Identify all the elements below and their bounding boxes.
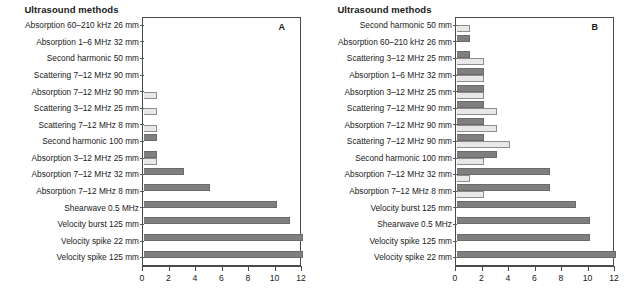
- bar-group: [457, 67, 626, 84]
- bar-group: [457, 183, 626, 200]
- bar-dark: [144, 234, 303, 241]
- bar-group: [144, 233, 313, 250]
- bar-light: [144, 92, 157, 99]
- chart-row: Second harmonic 100 mm: [0, 133, 313, 150]
- chart-row: Absorption 1–6 MHz 32 mm: [313, 67, 626, 84]
- x-axis-tick: [561, 266, 562, 271]
- bar-group: [144, 117, 313, 134]
- bar-group: [144, 17, 313, 34]
- row-label: Absorption 60–210 kHz 26 mm: [313, 38, 452, 46]
- row-label: Absorption 7–12 MHz 8 mm: [0, 187, 139, 195]
- bar-group: [457, 200, 626, 217]
- bar-group: [144, 150, 313, 167]
- bar-group: [144, 183, 313, 200]
- x-axis-tick: [248, 266, 249, 271]
- bar-dark: [457, 85, 484, 92]
- bar-dark: [144, 201, 277, 208]
- chart-row: Absorption 7–12 MHz 90 mm: [0, 83, 313, 100]
- x-axis-tick-label: 0: [453, 273, 458, 283]
- x-axis-tick: [195, 266, 196, 271]
- chart-row: Second harmonic 100 mm: [313, 150, 626, 167]
- panel-a: Ultrasound methodsAAbsorption 60–210 kHz…: [0, 0, 313, 302]
- row-label: Velocity spike 125 mm: [0, 253, 139, 261]
- figure-container: Ultrasound methodsAAbsorption 60–210 kHz…: [0, 0, 626, 302]
- panel-b-rows: Second harmonic 50 mmAbsorption 60–210 k…: [313, 17, 626, 266]
- x-axis-tick-label: 4: [193, 273, 198, 283]
- x-axis-tick: [508, 266, 509, 271]
- row-label: Scattering 7–12 MHz 90 mm: [313, 104, 452, 112]
- chart-row: Velocity burst 125 mm: [313, 200, 626, 217]
- bar-dark: [457, 51, 470, 58]
- bar-light: [457, 92, 484, 99]
- bar-group: [457, 117, 626, 134]
- x-axis-tick: [301, 266, 302, 271]
- row-label: Scattering 3–12 MHz 25 mm: [313, 54, 452, 62]
- panel-a-rows: Absorption 60–210 kHz 26 mmAbsorption 1–…: [0, 17, 313, 266]
- chart-row: Scattering 3–12 MHz 25 mm: [0, 100, 313, 117]
- bar-dark: [457, 184, 550, 191]
- bar-light: [144, 158, 157, 165]
- chart-row: Shearwave 0.5 MHz: [313, 216, 626, 233]
- chart-row: Absorption 7–12 MHz 8 mm: [0, 183, 313, 200]
- bar-group: [457, 249, 626, 266]
- chart-row: Velocity spike 125 mm: [313, 233, 626, 250]
- row-label: Scattering 3–12 MHz 25 mm: [0, 104, 139, 112]
- row-label: Absorption 1–6 MHz 32 mm: [0, 38, 139, 46]
- bar-light: [457, 58, 484, 65]
- panel-b-x-axis: 024681012: [455, 266, 614, 296]
- bar-light: [457, 141, 510, 148]
- x-axis-tick-label: 8: [559, 273, 564, 283]
- row-label: Velocity spike 22 mm: [0, 237, 139, 245]
- bar-light: [457, 191, 484, 198]
- bar-dark: [457, 234, 590, 241]
- bar-group: [144, 166, 313, 183]
- x-axis-tick: [614, 266, 615, 271]
- bar-light: [144, 125, 157, 132]
- row-label: Second harmonic 100 mm: [0, 137, 139, 145]
- bar-group: [144, 100, 313, 117]
- row-label: Absorption 7–12 MHz 8 mm: [313, 187, 452, 195]
- row-label: Second harmonic 100 mm: [313, 154, 452, 162]
- x-axis-tick-label: 0: [140, 273, 145, 283]
- bar-dark: [457, 217, 590, 224]
- panel-a-x-axis: 024681012: [142, 266, 301, 296]
- row-label: Absorption 7–12 MHz 90 mm: [313, 121, 452, 129]
- panel-b: Ultrasound methodsBSecond harmonic 50 mm…: [313, 0, 626, 302]
- x-axis-tick-label: 2: [479, 273, 484, 283]
- row-label: Velocity burst 125 mm: [313, 204, 452, 212]
- bar-group: [144, 249, 313, 266]
- bar-dark: [457, 35, 470, 42]
- bar-dark: [457, 101, 484, 108]
- x-axis-tick-label: 8: [246, 273, 251, 283]
- chart-row: Velocity spike 125 mm: [0, 249, 313, 266]
- chart-row: Velocity spike 22 mm: [313, 249, 626, 266]
- row-label: Shearwave 0.5 MHz: [313, 220, 452, 228]
- bar-dark: [144, 168, 184, 175]
- row-label: Velocity burst 125 mm: [0, 220, 139, 228]
- x-axis-tick: [455, 266, 456, 271]
- bar-dark: [457, 151, 497, 158]
- bar-dark: [144, 151, 157, 158]
- bar-group: [457, 166, 626, 183]
- bar-dark: [457, 118, 484, 125]
- bar-group: [457, 216, 626, 233]
- panel-b-title: Ultrasound methods: [313, 4, 456, 15]
- x-axis-tick-label: 10: [270, 273, 280, 283]
- x-axis-tick: [222, 266, 223, 271]
- bar-group: [457, 50, 626, 67]
- row-label: Absorption 3–12 MHz 25 mm: [0, 154, 139, 162]
- chart-row: Absorption 7–12 MHz 90 mm: [313, 117, 626, 134]
- x-axis-tick-label: 4: [506, 273, 511, 283]
- bar-light: [457, 125, 497, 132]
- bar-group: [144, 50, 313, 67]
- bar-group: [457, 34, 626, 51]
- row-label: Scattering 7–12 MHz 8 mm: [0, 121, 139, 129]
- bar-light: [457, 158, 484, 165]
- panel-a-title: Ultrasound methods: [0, 4, 143, 15]
- x-axis-tick-label: 12: [609, 273, 619, 283]
- chart-row: Velocity spike 22 mm: [0, 233, 313, 250]
- bar-group: [144, 200, 313, 217]
- row-label: Absorption 60–210 kHz 26 mm: [0, 21, 139, 29]
- row-label: Shearwave 0.5 MHz: [0, 204, 139, 212]
- chart-row: Scattering 7–12 MHz 8 mm: [0, 117, 313, 134]
